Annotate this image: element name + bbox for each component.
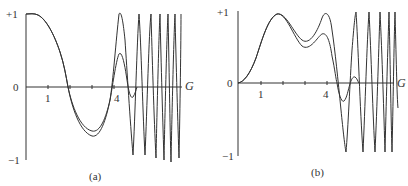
panel-b-y-top-label: +1 <box>217 7 229 18</box>
panel-a-x-tick-1-label: 1 <box>45 93 51 104</box>
panel-b-x-tick-1-label: 1 <box>258 89 264 100</box>
panel-b <box>238 11 398 156</box>
panel-a-y-bottom-label: −1 <box>8 155 20 166</box>
panel-a-x-axis-label: G <box>185 81 194 92</box>
panel-b-outer-curve <box>238 12 398 152</box>
panel-b-x-axis-label: G <box>397 78 406 89</box>
panel-a-y-zero-label: 0 <box>13 82 19 93</box>
figure-canvas <box>0 0 408 186</box>
panel-a-outer-curve <box>26 13 181 162</box>
panel-a-x-tick-4-label: 4 <box>114 93 120 104</box>
panel-b-x-tick-4-label: 4 <box>323 89 329 100</box>
panel-b-caption: (b) <box>311 167 324 178</box>
panel-b-y-bottom-label: −1 <box>222 151 234 162</box>
panel-b-y-zero-label: 0 <box>227 78 233 89</box>
panel-b-inner-curve <box>238 14 359 101</box>
panel-a <box>26 13 182 162</box>
panel-a-caption: (a) <box>89 171 101 182</box>
panel-a-y-top-label: +1 <box>6 9 18 20</box>
panel-a-inner-curve <box>26 14 137 131</box>
